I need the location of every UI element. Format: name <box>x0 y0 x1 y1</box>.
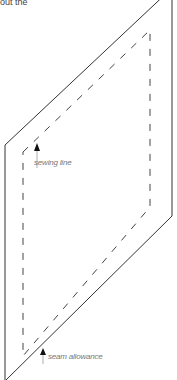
seam-allowance-label: seam allowance <box>48 352 103 361</box>
inner-sewing-line <box>23 30 150 356</box>
fabric-diagram <box>0 0 177 380</box>
outer-cut-edge <box>5 0 172 380</box>
sewing-line-label: sewing line <box>34 158 71 167</box>
seam-allowance-arrow-icon <box>40 348 46 364</box>
